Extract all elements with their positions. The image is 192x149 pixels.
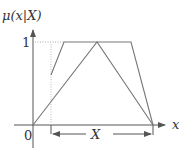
y-axis-label: μ(x|X): [2, 8, 42, 23]
membership-diagram: μ(x|X) 1 0 X x: [0, 0, 192, 149]
one-label: 1: [22, 35, 30, 50]
trapezoid-membership: [51, 42, 153, 125]
x-axis-label: x: [172, 117, 180, 132]
origin-label: 0: [24, 128, 32, 143]
interval-label: X: [90, 127, 101, 142]
